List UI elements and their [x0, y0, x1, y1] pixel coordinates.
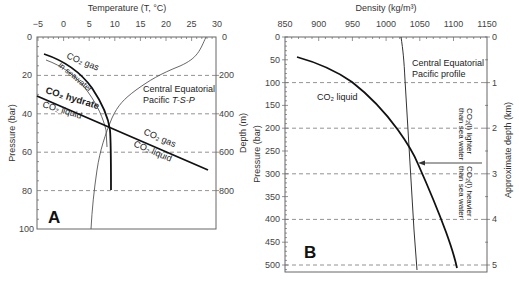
x-tick: 850 — [277, 19, 292, 29]
y-tick: 250 — [265, 146, 280, 156]
panel-b-x-tick-labels: 850 900 950 1000 1050 1100 1150 — [277, 19, 496, 29]
label-cep-line1: Central Equatorial — [412, 58, 484, 68]
x-tick: 950 — [345, 19, 360, 29]
x-tick: 900 — [311, 19, 326, 29]
panel-a-y-axis-label: Pressure (bar) — [7, 104, 17, 162]
label-cep-line2: Pacific profile — [412, 69, 466, 79]
y-tick: 450 — [265, 237, 280, 247]
co2-liquid-density-curve — [297, 57, 457, 268]
x-tick: 5 — [87, 19, 92, 29]
label-lighter-2: than sea water — [457, 108, 466, 161]
y-tick: 400 — [265, 214, 280, 224]
y-tick: 500 — [265, 260, 280, 270]
panel-a-x-tick-labels: −5 0 5 10 15 20 25 30 — [33, 19, 222, 29]
panel-b-right-tick-labels: 0 1 2 3 4 5 — [492, 32, 497, 270]
panel-a-y-tick-labels: 0 20 40 60 80 100 — [19, 32, 34, 234]
depth-tick: 200 — [219, 70, 234, 80]
depth-tick: 800 — [219, 186, 234, 196]
panel-a-x-axis-label: Temperature (T, °C) — [88, 3, 167, 13]
panel-a-top-ticks — [38, 37, 212, 41]
y-tick: 20 — [22, 70, 32, 80]
x-tick: 1150 — [477, 19, 496, 29]
panel-a-letter: A — [48, 208, 60, 227]
y-tick: 200 — [265, 123, 280, 133]
depth-tick: 0 — [222, 32, 227, 42]
figure: Temperature (T, °C) −5 0 5 10 15 20 25 3… — [0, 0, 519, 283]
x-tick: −5 — [33, 19, 43, 29]
y-tick: 0 — [275, 32, 280, 42]
panel-a: Temperature (T, °C) −5 0 5 10 15 20 25 3… — [7, 3, 248, 234]
panel-a-right-tick-labels: 0 200 400 600 800 — [219, 32, 234, 196]
y-tick: 40 — [22, 109, 32, 119]
x-tick: 10 — [110, 19, 120, 29]
x-tick: 30 — [212, 19, 222, 29]
label-profile-line1: Central Equatorial — [143, 84, 215, 94]
depth-tick: 600 — [219, 147, 234, 157]
panel-b-grid — [285, 83, 487, 265]
label-profile-line2: Pacific T-S-P — [143, 95, 195, 105]
x-tick: 20 — [161, 19, 171, 29]
panel-b: Density (kg/m³) 850 900 950 1000 1050 11… — [252, 3, 513, 272]
y-tick: 60 — [22, 147, 32, 157]
label-heavier-2: than sea water — [457, 166, 466, 219]
x-tick: 0 — [61, 19, 66, 29]
y-tick: 100 — [19, 224, 34, 234]
depth-tick: 3 — [492, 169, 497, 179]
y-tick: 50 — [270, 55, 280, 65]
x-tick: 25 — [187, 19, 197, 29]
panel-b-top-ticks — [292, 37, 481, 41]
depth-tick: 0 — [492, 32, 497, 42]
panel-b-letter: B — [304, 243, 316, 262]
depth-tick: 2 — [492, 123, 497, 133]
panel-b-x-axis-label: Density (kg/m³) — [355, 3, 416, 13]
depth-tick: 5 — [492, 260, 497, 270]
panel-b-y-axis-label: Pressure (bar) — [252, 125, 262, 183]
y-tick: 100 — [265, 78, 280, 88]
x-tick: 1000 — [376, 19, 396, 29]
panel-b-y-tick-labels: 0 50 100 150 200 250 300 350 400 450 500 — [265, 32, 280, 270]
panel-a-right-axis-label: Depth (m) — [238, 113, 248, 153]
y-tick: 350 — [265, 192, 280, 202]
x-tick: 1100 — [444, 19, 463, 29]
y-tick: 150 — [265, 100, 280, 110]
panel-b-right-axis-label: Approximate depth (km) — [503, 102, 513, 198]
y-tick: 80 — [22, 186, 32, 196]
y-tick: 300 — [265, 169, 280, 179]
depth-tick: 1 — [492, 78, 497, 88]
depth-tick: 4 — [492, 214, 497, 224]
depth-tick: 400 — [219, 109, 234, 119]
label-co2-liquid: CO₂ liquid — [317, 92, 358, 102]
x-tick: 1050 — [410, 19, 430, 29]
x-tick: 15 — [135, 19, 145, 29]
y-tick: 0 — [27, 32, 32, 42]
